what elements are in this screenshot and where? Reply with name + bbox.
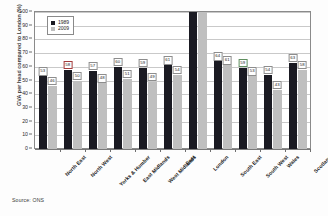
bar: 53 (39, 76, 48, 149)
x-axis-label: South East (239, 154, 263, 178)
bar-value-label: 64 (213, 52, 222, 60)
legend-item-2009: 2009 (51, 26, 69, 31)
bar-value-label: 48 (98, 74, 107, 82)
legend-swatch-2009-icon (51, 27, 55, 31)
x-tick-mark (310, 149, 311, 152)
y-tick-mark-80 (29, 38, 32, 39)
bar: 61 (164, 65, 173, 149)
bar-group (185, 12, 210, 149)
bar: 48 (98, 83, 107, 149)
y-tick-label-10: 10 (22, 131, 28, 137)
y-tick-label-70: 70 (22, 49, 28, 55)
bar: 54 (173, 75, 182, 149)
x-axis-label: South West (265, 154, 290, 179)
bar-group: 6154 (160, 12, 185, 149)
bar-group: 5949 (135, 12, 160, 149)
bar: 49 (148, 82, 157, 149)
bar (198, 12, 207, 149)
y-tick-mark-60 (29, 65, 32, 66)
bar-value-label: 43 (273, 81, 282, 89)
y-tick-label-60: 60 (22, 63, 28, 69)
y-tick-mark-50 (29, 79, 32, 80)
legend-label-2009: 2009 (58, 26, 69, 31)
bar-group: 6358 (285, 12, 310, 149)
bar: 54 (264, 75, 273, 149)
legend-swatch-1989-icon (51, 21, 55, 25)
bar: 57 (89, 71, 98, 149)
bar: 64 (214, 61, 223, 149)
chart-legend: 1989 2009 (47, 16, 74, 35)
y-tick-mark-20 (29, 120, 32, 121)
bar-value-label: 61 (223, 56, 232, 64)
bar-value-label: 53 (38, 67, 47, 75)
y-tick-label-80: 80 (22, 35, 28, 41)
bar-value-label: 54 (263, 66, 272, 74)
y-tick-mark-0 (29, 148, 32, 149)
bar-group: 5953 (235, 12, 260, 149)
bar-value-label: 50 (73, 72, 82, 80)
bars-layer: 5346585057486051594961546461595354436358 (35, 12, 310, 149)
gva-per-head-bar-chart: GVA per head compared to London (%) 0102… (0, 0, 328, 216)
bar-value-label: 58 (63, 61, 72, 69)
x-axis-category-labels: North EastNorth WestYorks & HumberEast M… (35, 152, 310, 192)
bar-group: 5748 (85, 12, 110, 149)
bar-value-label: 54 (173, 66, 182, 74)
bar-value-label: 59 (138, 59, 147, 67)
bar: 51 (123, 79, 132, 149)
bar-value-label: 49 (148, 73, 157, 81)
x-axis-label: London (212, 154, 230, 172)
bar-value-label: 51 (123, 70, 132, 78)
bar: 63 (289, 63, 298, 149)
x-axis-label: North East (64, 154, 87, 177)
bar: 53 (248, 76, 257, 149)
y-tick-mark-100 (29, 11, 32, 12)
y-tick-label-0: 0 (25, 145, 28, 151)
x-axis-label: Scotland (313, 154, 328, 174)
bar: 58 (298, 70, 307, 149)
bar-group: 6051 (110, 12, 135, 149)
y-tick-label-30: 30 (22, 104, 28, 110)
bar (189, 12, 198, 149)
bar-value-label: 61 (163, 56, 172, 64)
bar: 46 (48, 86, 57, 149)
bar: 60 (114, 67, 123, 149)
bar-value-label: 60 (113, 58, 122, 66)
y-tick-label-50: 50 (22, 77, 28, 83)
bar-value-label: 46 (48, 77, 57, 85)
y-tick-mark-30 (29, 106, 32, 107)
y-tick-label-20: 20 (22, 118, 28, 124)
bar: 61 (223, 65, 232, 149)
bar-group: 6461 (210, 12, 235, 149)
y-tick-mark-70 (29, 52, 32, 53)
y-tick-mark-40 (29, 93, 32, 94)
bar-value-label: 59 (238, 59, 247, 67)
bar: 50 (73, 81, 82, 150)
y-tick-mark-90 (29, 24, 32, 25)
source-note: Source: ONS (12, 197, 44, 203)
bar-value-label: 58 (298, 61, 307, 69)
bar: 58 (64, 70, 73, 149)
x-axis-label: North West (89, 154, 113, 178)
bar: 59 (139, 68, 148, 149)
bar: 43 (273, 90, 282, 149)
y-tick-label-100: 100 (19, 8, 28, 14)
y-axis-tick-labels: 0102030405060708090100 (10, 11, 32, 149)
y-tick-label-40: 40 (22, 90, 28, 96)
bar-group: 5443 (260, 12, 285, 149)
y-tick-label-90: 90 (22, 22, 28, 28)
bar-value-label: 63 (288, 54, 297, 62)
bar-value-label: 57 (88, 62, 97, 70)
bar: 59 (239, 68, 248, 149)
bar-value-label: 53 (248, 67, 257, 75)
y-tick-mark-10 (29, 134, 32, 135)
